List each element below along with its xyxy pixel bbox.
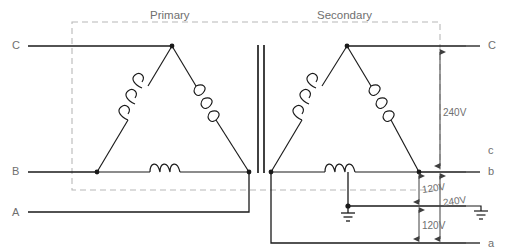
primary-coil-right <box>194 85 219 121</box>
primary-coil-left <box>119 74 143 120</box>
earth-ground-icon-right <box>466 206 488 219</box>
primary-coil-bottom <box>150 164 180 172</box>
terminal-label-b-right: b <box>488 166 494 177</box>
secondary-coil-bottom <box>325 164 355 172</box>
dimension-label-240v-c-b: 240V <box>443 108 466 118</box>
right-terminal-stubs <box>466 46 480 243</box>
primary-title: Primary <box>150 10 190 22</box>
secondary-coil-left <box>293 74 317 120</box>
secondary-title: Secondary <box>317 10 372 22</box>
secondary-coil-right <box>369 85 394 121</box>
transformer-core-icon <box>258 45 264 173</box>
schematic-canvas: Primary Secondary C B A C c b a 240V 120… <box>0 0 512 252</box>
dimension-lines <box>419 52 440 239</box>
primary-delta <box>97 46 249 172</box>
dimension-label-120v-lower: 120V <box>422 221 445 231</box>
secondary-delta <box>271 46 419 172</box>
secondary-nodes <box>269 44 422 175</box>
terminal-label-C-right: C <box>488 40 496 51</box>
terminal-label-c-right: c <box>488 145 494 156</box>
terminal-label-B-left: B <box>12 166 19 177</box>
terminal-label-a-right: a <box>488 238 494 249</box>
line-conductors <box>28 46 466 243</box>
transformer-diagram-svg <box>0 0 512 252</box>
earth-ground-icon-centertap <box>341 206 355 221</box>
terminal-label-A-left: A <box>12 207 19 218</box>
conductor-A-left <box>28 173 249 212</box>
primary-nodes <box>95 44 252 175</box>
terminal-label-C-left: C <box>12 40 20 51</box>
